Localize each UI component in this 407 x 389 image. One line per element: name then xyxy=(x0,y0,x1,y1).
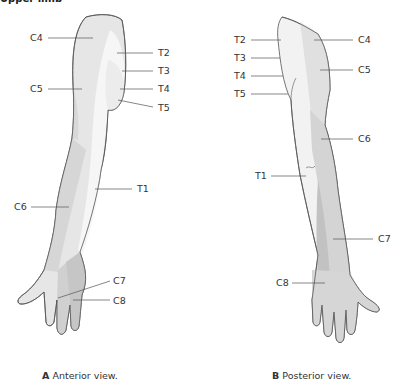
label-a-c4: C4 xyxy=(30,33,43,43)
label-a-t5: T5 xyxy=(158,103,170,113)
caption-a-text: Anterior view. xyxy=(52,370,117,381)
label-a-t2: T2 xyxy=(158,48,170,58)
caption-b-letter: B xyxy=(272,370,279,381)
label-a-c7: C7 xyxy=(113,276,126,286)
label-b-t4: T4 xyxy=(234,71,246,81)
label-a-t1: T1 xyxy=(137,184,149,194)
label-b-c4: C4 xyxy=(358,35,371,45)
anterior-arm-drawing xyxy=(18,15,153,335)
label-a-t3: T3 xyxy=(158,66,170,76)
label-b-c7: C7 xyxy=(378,234,391,244)
label-a-c8: C8 xyxy=(113,296,126,306)
dermatome-figure xyxy=(0,0,407,389)
label-b-t2: T2 xyxy=(234,35,246,45)
caption-b: B Posterior view. xyxy=(272,370,351,381)
label-b-c5: C5 xyxy=(358,65,371,75)
label-a-c6: C6 xyxy=(14,202,27,212)
label-b-t3: T3 xyxy=(234,53,246,63)
caption-a-letter: A xyxy=(42,370,49,381)
caption-a: A Anterior view. xyxy=(42,370,118,381)
label-b-t1: T1 xyxy=(255,171,267,181)
label-a-t4: T4 xyxy=(158,84,170,94)
label-b-c8: C8 xyxy=(276,278,289,288)
label-b-c6: C6 xyxy=(358,134,371,144)
caption-b-text: Posterior view. xyxy=(282,370,351,381)
label-a-c5: C5 xyxy=(30,84,43,94)
label-b-t5: T5 xyxy=(234,89,246,99)
